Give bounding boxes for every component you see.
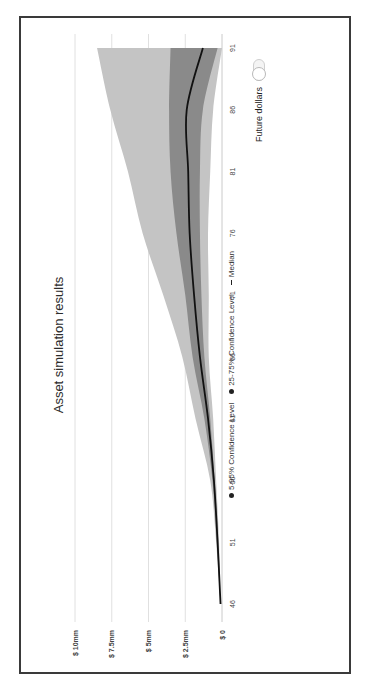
legend-item-5-95[interactable]: 5-95% Confidence Level <box>227 403 236 498</box>
legend-label: 5-95% Confidence Level <box>227 403 236 490</box>
chart-canvas: Asset simulation results $ 0$ 2.5mm$ 5mm… <box>19 16 351 674</box>
legend-item-median[interactable]: Median <box>227 251 236 285</box>
y-axis-labels: $ 0$ 2.5mm$ 5mm$ 7.5mm$ 10mm <box>72 630 227 658</box>
x-tick-label: 81 <box>229 168 236 176</box>
legend-dot-icon <box>229 493 234 498</box>
y-tick-label: $ 7.5mm <box>108 630 116 658</box>
y-tick-label: $ 2.5mm <box>182 630 190 658</box>
y-tick-label: $ 5mm <box>145 630 153 652</box>
confidence-bands <box>97 48 222 604</box>
x-tick-label: 86 <box>229 106 236 114</box>
future-dollars-toggle[interactable] <box>253 59 265 81</box>
future-dollars-label: Future dollars <box>254 87 264 142</box>
y-tick-label: $ 0 <box>219 630 227 640</box>
legend: 5-95% Confidence Level 25-75% Confidence… <box>227 251 236 498</box>
legend-dot-icon <box>229 389 234 394</box>
legend-item-25-75[interactable]: 25-75% Confidence Level <box>227 294 236 394</box>
x-tick-label: 76 <box>229 229 236 237</box>
x-tick-label: 91 <box>229 44 236 52</box>
plot-area: $ 0$ 2.5mm$ 5mm$ 7.5mm$ 10mm 46515661667… <box>19 16 351 674</box>
x-tick-label: 46 <box>229 600 236 608</box>
x-tick-label: 51 <box>229 538 236 546</box>
legend-line-icon <box>231 280 233 285</box>
confidence-band <box>97 48 222 604</box>
legend-label: 25-75% Confidence Level <box>227 294 236 386</box>
y-tick-label: $ 10mm <box>72 630 80 656</box>
toggle-knob-icon <box>252 67 266 81</box>
legend-label: Median <box>227 251 236 277</box>
future-dollars-control: Future dollars <box>253 59 265 142</box>
